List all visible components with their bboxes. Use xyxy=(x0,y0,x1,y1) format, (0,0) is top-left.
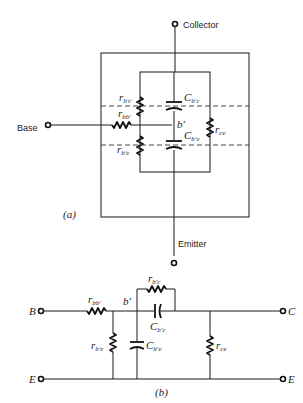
label-rbb-b: rbb′ xyxy=(88,293,101,307)
resistor-rce-b xyxy=(207,336,213,355)
label-terminal-b: B xyxy=(29,305,36,317)
label-rbc-b: rb′c xyxy=(148,272,161,286)
label-terminal-e-left: E xyxy=(28,373,36,385)
resistor-rbc-b xyxy=(147,286,166,292)
label-cbe-b: Cb′e xyxy=(146,339,161,353)
label-cbc-a: Cb′c xyxy=(184,91,200,105)
resistor-rbe-a xyxy=(137,136,143,155)
terminal-e-left xyxy=(39,377,44,382)
label-rce-b: rce xyxy=(216,339,227,353)
resistor-rbb-b xyxy=(87,308,106,314)
label-cbc-b: Cb′c xyxy=(150,320,166,334)
emitter-terminal xyxy=(172,261,177,266)
node-b-prime-b: b′ xyxy=(123,295,132,307)
label-cbe-a: Cb′e xyxy=(184,129,199,143)
label-terminal-e-right: E xyxy=(287,373,295,385)
base-terminal xyxy=(46,123,51,128)
hybrid-pi-diagram: Collector Cb′c Cb′e rb′c rb′e rce xyxy=(0,0,303,403)
inner-model-box xyxy=(140,72,210,172)
node-b-prime-a: b′ xyxy=(177,118,186,130)
resistor-rbc-a xyxy=(137,97,143,116)
caption-a: (a) xyxy=(63,208,76,221)
resistor-rce-a xyxy=(207,118,213,137)
collector-label: Collector xyxy=(183,20,219,30)
label-rbc-a: rb′c xyxy=(119,91,132,105)
diagram-part-a: Collector Cb′c Cb′e rb′c rb′e rce xyxy=(17,20,249,266)
resistor-rbb-a xyxy=(112,122,131,128)
base-label: Base xyxy=(17,123,38,133)
capacitor-cbe-b xyxy=(130,342,144,349)
label-rbb-a: rbb′ xyxy=(118,107,131,121)
label-terminal-c: C xyxy=(288,305,296,317)
label-rce-a: rce xyxy=(215,123,226,137)
caption-b: (b) xyxy=(155,386,168,399)
resistor-rbe-b xyxy=(110,333,116,352)
terminal-e-right xyxy=(281,377,286,382)
outer-package-box xyxy=(101,53,249,217)
emitter-label: Emitter xyxy=(178,239,207,249)
diagram-part-b: B rbb′ b′ Cb′c C rb′c rb′e xyxy=(28,272,296,399)
terminal-c xyxy=(281,309,286,314)
terminal-b xyxy=(39,309,44,314)
collector-terminal xyxy=(173,22,178,27)
label-rbe-b: rb′e xyxy=(91,339,103,353)
